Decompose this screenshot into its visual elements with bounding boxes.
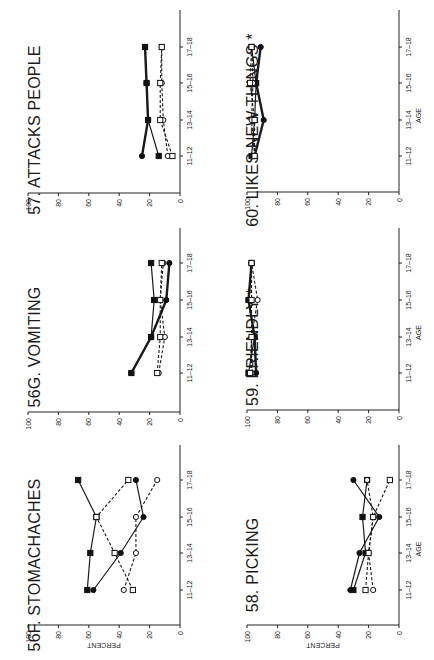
square-marker [249, 260, 254, 265]
chart-panel-1: 10080604020011–1213–1415–1617–1857. ATTA… [25, 10, 194, 215]
age-tick-label: 11–12 [186, 363, 193, 382]
square-marker [152, 297, 157, 302]
series-line-filled-square [78, 480, 96, 590]
series-line-filled-square [353, 480, 367, 590]
circle-marker [133, 514, 138, 519]
circle-marker [364, 477, 369, 482]
chart-panel-3: 10080604020011–1213–1415–1617–18PERCENT5… [25, 445, 194, 651]
square-marker [156, 153, 161, 158]
age-tick-label: 17–18 [405, 253, 412, 273]
age-tick-label: 15–16 [405, 73, 412, 93]
circle-marker [357, 550, 362, 555]
age-tick-label: 15–16 [405, 507, 412, 527]
percent-tick-label: 60 [85, 418, 92, 426]
percent-tick-label: 80 [55, 199, 62, 207]
percent-tick-label: 40 [335, 631, 342, 639]
age-tick-label: 11–12 [405, 580, 412, 599]
percent-tick-label: 0 [396, 198, 403, 202]
age-axis-label: AGE [415, 325, 422, 340]
circle-marker [133, 477, 138, 482]
square-marker [252, 153, 257, 158]
percent-tick-label: 100 [244, 416, 251, 428]
panel-title: 56F. STOMACHACHES [26, 479, 43, 652]
square-marker [252, 117, 257, 122]
square-marker [249, 44, 254, 49]
square-marker [144, 80, 149, 85]
age-tick-label: 17–18 [186, 37, 193, 57]
circle-marker [351, 477, 356, 482]
percent-tick-label: 80 [55, 418, 62, 426]
percent-tick-label: 20 [365, 416, 372, 424]
percent-tick-label: 20 [146, 199, 153, 207]
panel-title: 56G. VOMITING [26, 287, 43, 408]
circle-marker [167, 260, 172, 265]
age-tick-label: 13–14 [186, 110, 193, 130]
percent-tick-label: 0 [396, 416, 403, 420]
circle-marker [141, 514, 146, 519]
square-marker [360, 514, 365, 519]
square-marker [94, 514, 99, 519]
percent-tick-label: 40 [116, 199, 123, 207]
percent-tick-label: 20 [146, 418, 153, 426]
panels-group: 10080604020011–1213–1415–1617–1857. ATTA… [25, 10, 423, 651]
age-tick-label: 15–16 [186, 73, 193, 93]
figure-canvas: 10080604020011–1213–1415–1617–1857. ATTA… [0, 0, 434, 660]
age-tick-label: 11–12 [186, 146, 193, 165]
square-marker [145, 117, 150, 122]
age-tick-label: 11–12 [405, 363, 412, 382]
percent-tick-label: 20 [365, 198, 372, 206]
panel-title: 57. ATTACKS PEOPLE [26, 45, 43, 214]
age-tick-label: 17–18 [186, 470, 193, 490]
square-marker [170, 153, 175, 158]
age-tick-label: 13–14 [186, 543, 193, 563]
square-marker [159, 44, 164, 49]
square-marker [158, 117, 163, 122]
square-marker [159, 260, 164, 265]
circle-marker [139, 153, 144, 158]
square-marker [76, 477, 81, 482]
percent-tick-label: 0 [396, 631, 403, 635]
age-tick-label: 15–16 [405, 290, 412, 310]
percent-tick-label: 100 [244, 631, 251, 643]
circle-marker [121, 587, 126, 592]
square-marker [247, 80, 252, 85]
series-line-filled-circle [131, 263, 169, 373]
circle-marker [133, 550, 138, 555]
square-marker [363, 587, 368, 592]
percent-tick-label: 80 [274, 198, 281, 206]
square-marker [112, 550, 117, 555]
square-marker [126, 477, 131, 482]
chart-panel-5: 10080604020011–1213–1415–1617–18AGE59. F… [244, 228, 423, 428]
series-line-open-square [96, 480, 132, 590]
series-line-open-circle [124, 480, 157, 590]
square-marker [351, 587, 356, 592]
square-marker [129, 370, 134, 375]
series-line-open-circle [367, 480, 373, 590]
percent-tick-label: 80 [274, 416, 281, 424]
age-axis-label: AGE [415, 541, 422, 556]
circle-marker [155, 477, 160, 482]
age-tick-label: 17–18 [186, 253, 193, 273]
percent-tick-label: 40 [116, 418, 123, 426]
age-tick-label: 13–14 [405, 327, 412, 347]
square-marker [371, 514, 376, 519]
square-marker [158, 297, 163, 302]
panel-title: 58. PICKING [244, 518, 261, 613]
percent-axis-label: PERCENT [306, 642, 340, 649]
percent-tick-label: 100 [25, 418, 32, 430]
percent-tick-label: 60 [85, 631, 92, 639]
age-tick-label: 17–18 [405, 37, 412, 57]
square-marker [249, 334, 254, 339]
percent-tick-label: 20 [365, 631, 372, 639]
square-marker [130, 587, 135, 592]
percent-tick-label: 60 [85, 199, 92, 207]
square-marker [155, 370, 160, 375]
circle-marker [118, 550, 123, 555]
circle-marker [255, 297, 260, 302]
age-tick-label: 11–12 [405, 146, 412, 165]
square-marker [387, 477, 392, 482]
percent-tick-label: 60 [304, 198, 311, 206]
chart-panel-4: 10080604020011–1213–1415–1617–18AGE60. L… [244, 10, 423, 227]
percent-axis-label: PERCENT [87, 642, 121, 649]
age-tick-label: 15–16 [186, 507, 193, 527]
